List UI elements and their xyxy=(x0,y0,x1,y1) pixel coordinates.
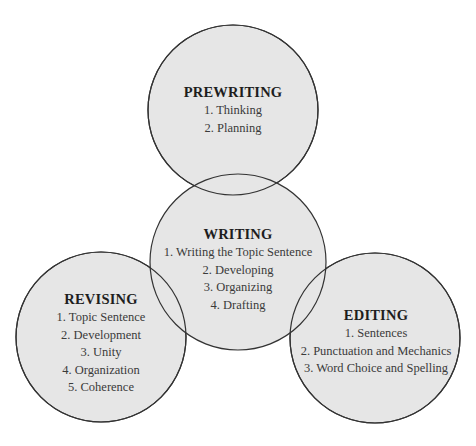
revising-title: REVISING xyxy=(57,290,146,308)
writing-item: 2. Developing xyxy=(164,262,312,280)
prewriting-title: PREWRITING xyxy=(184,83,283,101)
editing-title: EDITING xyxy=(301,306,452,324)
writing-item: 3. Organizing xyxy=(164,279,312,297)
revising-item: 4. Organization xyxy=(57,362,146,380)
revising-item: 3. Unity xyxy=(57,344,146,362)
writing-item: 1. Writing the Topic Sentence xyxy=(164,244,312,262)
revising-label: REVISING 1. Topic Sentence 2. Developmen… xyxy=(57,290,146,397)
revising-item: 1. Topic Sentence xyxy=(57,309,146,327)
editing-item: 1. Sentences xyxy=(301,325,452,343)
prewriting-item: 1. Thinking xyxy=(184,102,283,120)
editing-label: EDITING 1. Sentences 2. Punctuation and … xyxy=(301,306,452,378)
editing-item: 3. Word Choice and Spelling xyxy=(301,360,452,378)
writing-item: 4. Drafting xyxy=(164,297,312,315)
writing-label: WRITING 1. Writing the Topic Sentence 2.… xyxy=(164,225,312,314)
writing-title: WRITING xyxy=(164,225,312,243)
prewriting-item: 2. Planning xyxy=(184,120,283,138)
revising-item: 5. Coherence xyxy=(57,379,146,397)
revising-item: 2. Development xyxy=(57,327,146,345)
editing-item: 2. Punctuation and Mechanics xyxy=(301,343,452,361)
prewriting-label: PREWRITING 1. Thinking 2. Planning xyxy=(184,83,283,137)
